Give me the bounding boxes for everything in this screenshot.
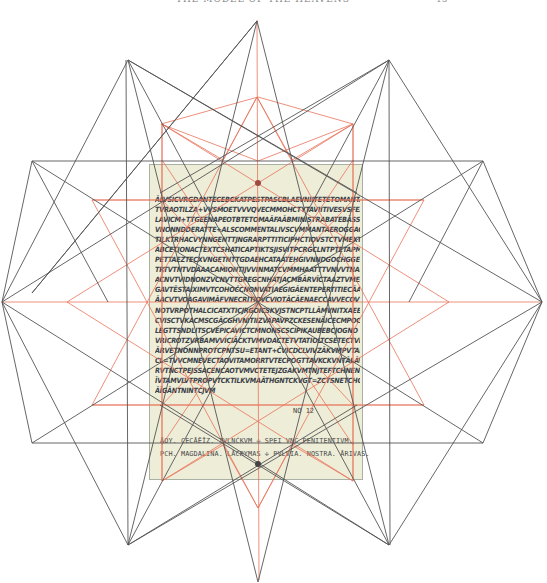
text-line: ĀACVTVOAGAVIMĀFVNECRITIOVCVIOTĀCĀENAECCA… — [155, 295, 360, 305]
text-line: VNONNDDERATTE+ALSCOMMENTALIVSCVMMANTAERO… — [155, 225, 360, 235]
text-line: CVISCTVKACMSCGĀCGHVNITIIZVAPAVPZCKESENĀI… — [155, 316, 360, 326]
text-line: ĀRVETNONNPROTCPNTSU=ETANT+ČVICDCLVIVZĀKV… — [155, 346, 360, 356]
number-annotation: NO 12 — [293, 407, 314, 415]
text-line: ĪVTAMVLVTPROPVTCKTILKVMAĀTHGNTCKVGT=ZCTS… — [155, 376, 360, 386]
text-line: ĀLVSICVRGDANTECEBCKATPESTPASCBLAEVNIITET… — [155, 195, 360, 205]
manuscript-text: ĀLVSICVRGDANTECEBCKATPESTPASCBLAEVNIITET… — [155, 195, 360, 396]
page-header: THE MODEL OF THE HEAVENS 15 — [0, 0, 547, 6]
text-line: TVRAOTILZA+VVSMOETVVVQVECMMOHCTYTAVIITIV… — [155, 205, 360, 215]
running-title: THE MODEL OF THE HEAVENS — [176, 0, 350, 4]
colophon-line-1: ĀOY. CECĀĒĪZ. TVLNĆKVM ✢ SPEI VNC PENITE… — [160, 437, 370, 445]
text-line: TILKTRHACVYNNGENTTJNGRARPTTITICIPHCTIOVS… — [155, 235, 360, 245]
text-line: VRICROTZVRBAMVVICIĀCKTVMVDACTETVTATIOLTC… — [155, 336, 360, 346]
text-line: GAVTĒSTAIXIMVTCOHOČCNONVATIAEGIGĀENTEPER… — [155, 285, 360, 295]
text-line: LEGTTSNDLITSCVEPICAVICTCMNONSCSCIPIKAUBE… — [155, 326, 360, 336]
text-line: PETTAEZTECXVNGETNTTGDAEHCATAATEHGIVNNDGO… — [155, 255, 360, 265]
text-line: ĀĪGĀNTNINTCJVM — [155, 386, 360, 396]
colophon-line-2: PCH. MAGDALINA. LĀCRYMAS ✢ PVLVIA. NOSTR… — [160, 450, 370, 458]
text-line: ABCETIONACTEXTCSHATICAPTIKTSJISVITPCRGCL… — [155, 245, 360, 255]
text-line: CL=TVVCMNEVECTAOVITAMORRTVTECPOGTTAVKCKV… — [155, 356, 360, 366]
text-line: ACNVTVIDNONZVCNVTTGREGCNHATJACMBĀRVĪCTAA… — [155, 275, 360, 285]
text-line: TRTVTNTVDAAACAMIONTIJVVINMATCVMMHAATTTVN… — [155, 265, 360, 275]
text-line: NOTVRPOTHALCICATXTICJRGOICSKVJSTNCPTLLĀM… — [155, 306, 360, 316]
text-line: LAVICM+TTGEENAPEOTBTETOMAĀFAĀBMINISTRABA… — [155, 215, 360, 225]
text-line: RVTNCTPEJSSACENCAOTVMVCTETEJZGAKVMTNJTEF… — [155, 366, 360, 376]
page-number: 15 — [436, 0, 447, 4]
